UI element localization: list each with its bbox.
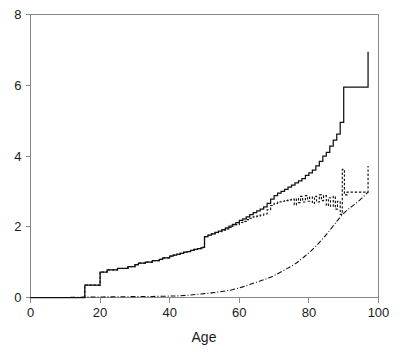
x-tick-label: 0 xyxy=(27,305,34,320)
x-tick-label: 100 xyxy=(368,305,390,320)
x-tick-label: 20 xyxy=(93,305,107,320)
figure-background xyxy=(0,0,400,356)
x-tick-label: 80 xyxy=(302,305,316,320)
x-axis-title: Age xyxy=(192,329,217,345)
x-tick-label: 40 xyxy=(162,305,176,320)
chart-figure: 020406080100 02468 Age xyxy=(0,0,400,356)
y-tick-label: 6 xyxy=(14,78,21,93)
chart-canvas: 020406080100 02468 Age xyxy=(0,0,400,356)
y-tick-label: 0 xyxy=(14,290,21,305)
y-tick-label: 4 xyxy=(14,149,21,164)
y-tick-label: 8 xyxy=(14,7,21,22)
x-tick-label: 60 xyxy=(232,305,246,320)
y-tick-label: 2 xyxy=(14,219,21,234)
